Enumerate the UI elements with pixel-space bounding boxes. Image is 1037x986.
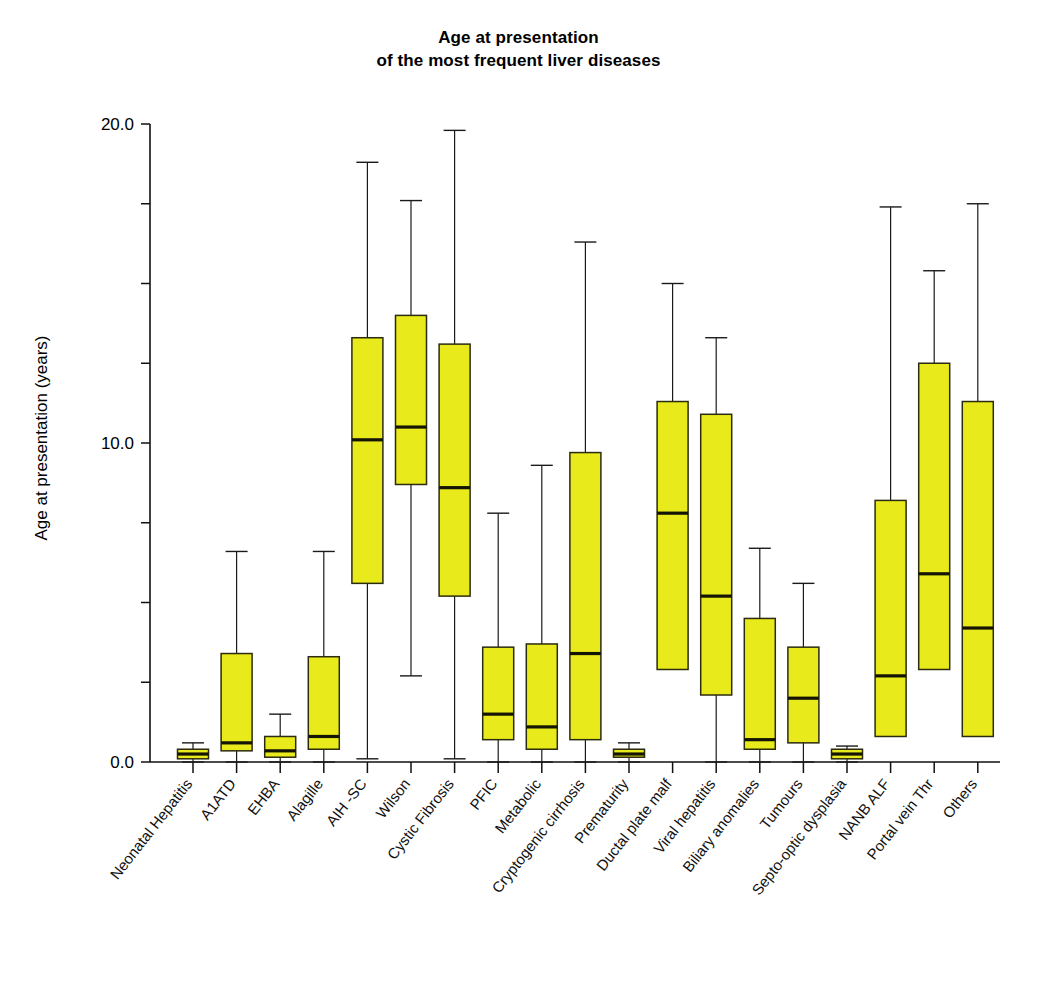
x-category-label-18: Others — [939, 775, 980, 821]
box-plot-0 — [178, 743, 209, 762]
box-plot-16 — [875, 207, 906, 737]
box-body-12 — [701, 414, 732, 695]
boxplot-figure: 0.010.020.0 Neonatal HepatitisA1ATDEHBAA… — [0, 0, 1037, 986]
box-body-2 — [265, 736, 296, 757]
x-category-label-11: Ductal plate malf — [593, 775, 676, 874]
x-category-label-1: A1ATD — [196, 775, 239, 823]
box-body-7 — [483, 647, 514, 740]
box-body-6 — [439, 344, 470, 596]
y-axis-ticks — [141, 124, 150, 762]
x-category-label-0: Neonatal Hepatitis — [107, 775, 196, 882]
box-plot-11 — [657, 284, 688, 670]
box-body-18 — [962, 402, 993, 737]
x-category-label-5: Wilson — [372, 775, 413, 821]
box-plot-15 — [832, 746, 863, 762]
x-category-label-13: Biliary anomalies — [679, 775, 762, 875]
box-body-1 — [221, 654, 252, 751]
chart-page: Age at presentation of the most frequent… — [0, 0, 1037, 986]
box-body-16 — [875, 500, 906, 736]
x-category-label-3: Alagille — [283, 775, 326, 824]
y-tick-label-0: 0.0 — [110, 753, 134, 772]
x-axis-ticks — [193, 762, 978, 773]
box-plot-1 — [221, 551, 252, 762]
box-body-9 — [570, 453, 601, 740]
box-plot-12 — [701, 338, 732, 762]
box-plot-6 — [439, 130, 470, 758]
box-plot-series — [178, 130, 994, 762]
box-body-11 — [657, 402, 688, 670]
box-plot-5 — [396, 201, 427, 676]
box-body-13 — [744, 618, 775, 749]
x-category-label-7: PFIC — [466, 775, 501, 813]
box-plot-14 — [788, 583, 819, 762]
x-axis-category-labels: Neonatal HepatitisA1ATDEHBAAlagilleAIH -… — [107, 775, 981, 898]
box-plot-13 — [744, 548, 775, 762]
box-body-5 — [396, 315, 427, 484]
x-category-label-2: EHBA — [244, 775, 283, 818]
y-tick-label-1: 10.0 — [101, 434, 134, 453]
box-plot-17 — [919, 271, 950, 670]
y-axis-tick-labels: 0.010.020.0 — [101, 115, 134, 772]
y-tick-label-2: 20.0 — [101, 115, 134, 134]
box-plot-9 — [570, 242, 601, 762]
box-body-4 — [352, 338, 383, 584]
x-category-label-4: AIH -SC — [322, 775, 369, 829]
box-plot-2 — [265, 714, 296, 762]
box-plot-8 — [526, 465, 557, 762]
box-body-14 — [788, 647, 819, 743]
box-plot-3 — [308, 551, 339, 762]
box-body-8 — [526, 644, 557, 749]
box-body-17 — [919, 363, 950, 669]
box-plot-4 — [352, 162, 383, 759]
box-plot-18 — [962, 204, 993, 737]
box-plot-10 — [614, 743, 645, 762]
box-plot-7 — [483, 513, 514, 762]
